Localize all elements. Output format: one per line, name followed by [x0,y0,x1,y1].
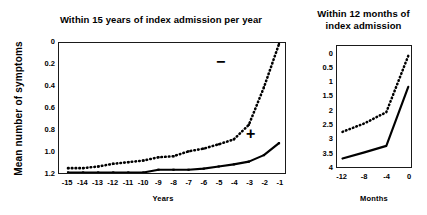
left-plot-area [58,42,286,174]
figure-container: Mean number of symptoms Within 15 years … [0,0,427,215]
left-y-tick-5: 0.2 [29,59,55,68]
data-point-marker [278,142,280,144]
data-point-marker [263,154,265,156]
data-point-marker [172,169,174,171]
data-point-marker [203,168,205,170]
data-point-marker [248,161,250,163]
left-y-tick-6: 0 [29,37,55,46]
right-y-tick-8: 0 [307,49,333,58]
left-x-axis-label: Years [118,194,208,203]
data-point-marker [233,138,235,140]
left-y-tick-2: 0.8 [29,125,55,134]
right-x-axis-label: Months [336,194,412,203]
data-point-marker [157,169,159,171]
right-plot-svg [337,46,411,167]
series-line-positive [68,143,279,172]
left-y-tick-1: 1.0 [29,147,55,156]
data-point-marker [218,165,220,167]
right-y-tick-1: 3.5 [307,149,333,158]
right-panel-title-line-2: index admission [300,20,427,32]
right-y-tick-5: 1.5 [307,91,333,100]
y-axis-label: Mean number of symptoms [13,39,24,179]
data-point-marker [67,167,69,169]
right-y-tick-7: 0.5 [307,63,333,72]
data-point-marker [97,171,99,173]
data-point-marker [112,171,114,173]
data-point-marker [172,155,174,157]
data-point-marker [233,163,235,165]
series-line-negative [68,44,279,168]
data-point-marker [82,171,84,173]
series-line-positive [342,87,408,159]
right-y-tick-4: 2 [307,106,333,115]
left-panel-title: Within 15 years of index admission per y… [30,14,292,26]
data-point-marker [127,171,129,173]
left-x-tick-14: -1 [269,178,291,187]
right-x-tick-1: -8 [353,172,375,181]
right-x-tick-3: 0 [398,172,420,181]
left-y-tick-4: 0.4 [29,81,55,90]
left-plot-svg [59,43,285,173]
right-y-tick-6: 1 [307,77,333,86]
data-point-marker [142,159,144,161]
right-x-tick-0: -12 [331,172,353,181]
right-panel-title-line-1: Within 12 months of [300,8,427,20]
right-panel-title: Within 12 months of index admission [300,8,427,32]
data-point-marker [218,143,220,145]
right-y-tick-0: 4 [307,163,333,172]
data-point-marker [187,150,189,152]
data-point-marker [127,161,129,163]
data-point-marker [97,165,99,167]
data-point-marker [263,86,265,88]
data-point-marker [157,156,159,158]
left-y-tick-0: 1.2 [29,169,55,178]
series-marker-negative: − [216,54,225,70]
data-point-marker [203,148,205,150]
data-point-marker [112,163,114,165]
right-plot-area [336,45,412,168]
data-point-marker [82,167,84,169]
series-line-negative [342,56,408,132]
data-point-marker [278,43,280,45]
left-y-tick-3: 0.6 [29,103,55,112]
data-point-marker [67,171,69,173]
series-marker-positive: + [246,126,255,142]
right-y-tick-3: 2.5 [307,120,333,129]
right-y-tick-2: 3 [307,134,333,143]
right-x-tick-2: -4 [376,172,398,181]
data-point-marker [142,171,144,173]
data-point-marker [187,169,189,171]
